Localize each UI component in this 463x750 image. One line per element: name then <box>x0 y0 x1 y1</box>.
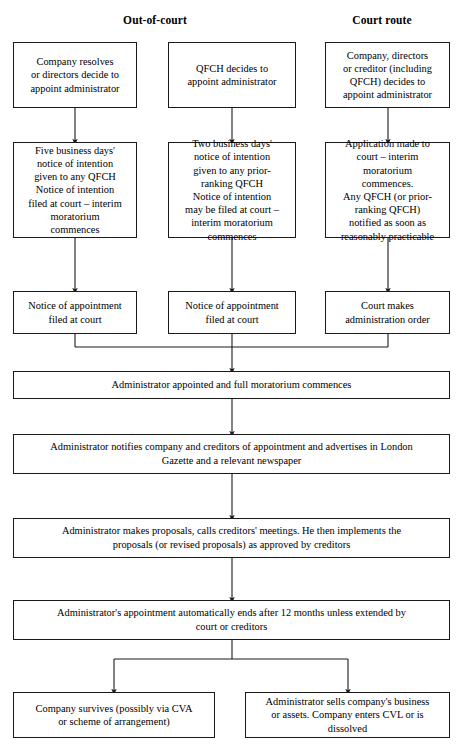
five-business-days-notice-box: Five business days' notice of intention … <box>13 142 137 238</box>
administrator-appointed-box: Administrator appointed and full morator… <box>13 371 450 399</box>
node-text: Company survives (possibly via CVA or sc… <box>18 702 210 728</box>
node-text: Court makes administration order <box>330 299 445 325</box>
node-text: Two business days' notice of intention g… <box>173 137 291 243</box>
column-header-label: Out-of-court <box>123 14 187 26</box>
administrator-notifies-box: Administrator notifies company and credi… <box>13 434 450 474</box>
company-survives-box: Company survives (possibly via CVA or sc… <box>13 692 215 738</box>
company-resolves-box: Company resolves or directors decide to … <box>13 42 137 108</box>
notice-of-appointment-filed-left-box: Notice of appointment filed at court <box>13 291 137 334</box>
column-header-label: Court route <box>352 14 411 26</box>
qfch-decides-box: QFCH decides to appoint administrator <box>168 42 296 108</box>
court-makes-administration-order-box: Court makes administration order <box>325 291 450 334</box>
node-text: Company, directors or creditor (includin… <box>330 49 445 102</box>
column-header-out-of-court: Out-of-court <box>123 14 187 26</box>
node-text: Administrator sells company's business o… <box>250 695 445 735</box>
node-text: Administrator notifies company and credi… <box>18 440 445 468</box>
node-text: Administrator makes proposals, calls cre… <box>18 524 445 552</box>
two-business-days-notice-box: Two business days' notice of intention g… <box>168 142 296 238</box>
node-text: Administrator's appointment automaticall… <box>18 606 445 634</box>
node-text: Notice of appointment filed at court <box>18 299 132 325</box>
node-text: QFCH decides to appoint administrator <box>173 62 291 88</box>
node-text: Company resolves or directors decide to … <box>18 55 132 95</box>
node-text: Five business days' notice of intention … <box>18 144 132 236</box>
node-text: Administrator appointed and full morator… <box>18 378 445 392</box>
administration-flowchart: Out-of-court Court route Company resolve… <box>0 0 463 750</box>
administrator-sells-box: Administrator sells company's business o… <box>245 692 450 738</box>
administrator-proposals-box: Administrator makes proposals, calls cre… <box>13 518 450 558</box>
appointment-ends-box: Administrator's appointment automaticall… <box>13 600 450 640</box>
company-directors-creditor-box: Company, directors or creditor (includin… <box>325 42 450 108</box>
notice-of-appointment-filed-middle-box: Notice of appointment filed at court <box>168 291 296 334</box>
node-text: Application made to court – interim mora… <box>330 137 445 243</box>
node-text: Notice of appointment filed at court <box>173 299 291 325</box>
application-made-to-court-box: Application made to court – interim mora… <box>325 142 450 238</box>
column-header-court-route: Court route <box>352 14 411 26</box>
